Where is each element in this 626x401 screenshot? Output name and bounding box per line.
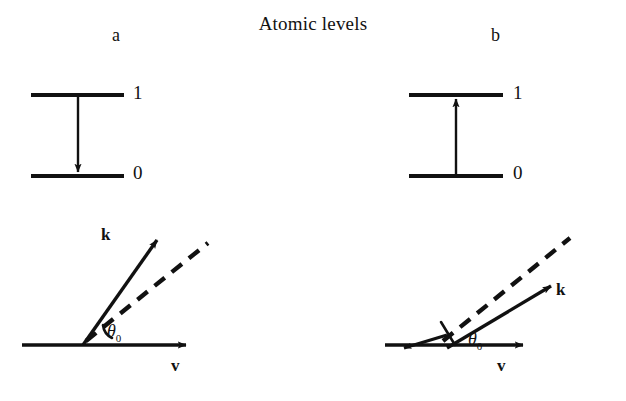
vector-diagram-b bbox=[385, 238, 570, 348]
dashed-reference-line-b bbox=[443, 238, 570, 341]
level-diagram-a bbox=[31, 95, 124, 176]
level-diagram-b bbox=[409, 95, 503, 176]
atomic-levels-figure: Atomic levels a b 1 0 1 0 k v k v θ0 θ0 bbox=[0, 0, 626, 401]
figure-vector-graphics bbox=[0, 0, 626, 401]
vector-diagram-a bbox=[22, 240, 208, 345]
angle-arc-a bbox=[103, 325, 112, 338]
